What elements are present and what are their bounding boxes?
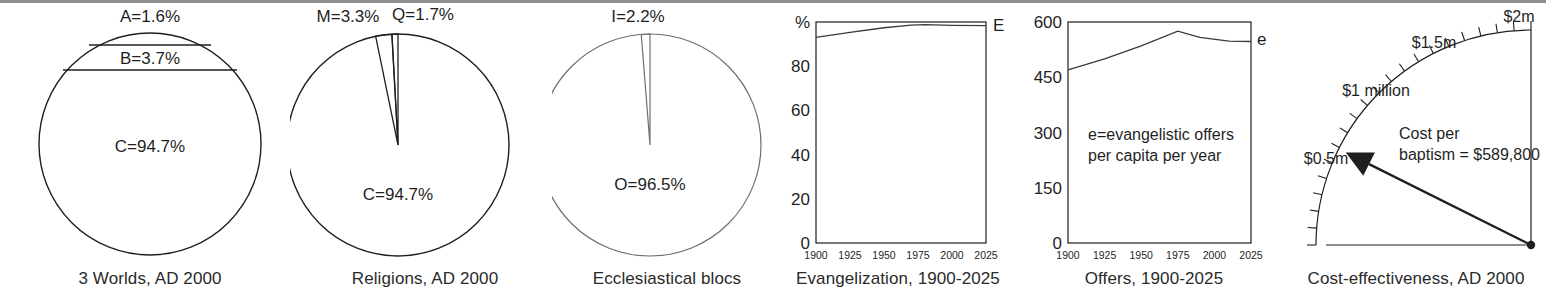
offers-x-tick-labels: 190019251950197520002025 — [1056, 249, 1263, 261]
caption-blocs: Ecclesiastical blocs — [552, 269, 782, 289]
chart-panel-religions: M=3.3% Q=1.7% C=94.7% Religions, AD 2000 — [290, 0, 560, 301]
religions-pie-outline — [290, 34, 509, 256]
evangelization-x-tick-labels: 190019251950197520002025 — [804, 249, 998, 261]
gauge-label-half-million: $0.5m — [1304, 150, 1348, 167]
chart-panel-cost-effectiveness: $0.5m $1 million $1.5m $2m Cost per bapt… — [1286, 0, 1546, 301]
worlds-label-c: C=94.7% — [115, 137, 185, 156]
evangelization-series-label: E — [993, 16, 1004, 35]
svg-text:60: 60 — [791, 101, 810, 120]
evangelization-series-line — [816, 25, 986, 38]
blocs-label-o: O=96.5% — [614, 175, 685, 194]
svg-text:40: 40 — [791, 146, 810, 165]
religions-label-m: M=3.3% — [317, 7, 380, 26]
svg-text:450: 450 — [1034, 68, 1062, 87]
svg-text:80: 80 — [791, 57, 810, 76]
religions-label-c: C=94.7% — [363, 185, 433, 204]
gauge-needle — [1369, 164, 1531, 245]
evangelization-svg: % 020406080 190019251950197520002025 E — [772, 0, 1024, 270]
chart-panel-blocs: I=2.2% O=96.5% Ecclesiastical blocs — [552, 0, 782, 301]
gauge-label-two-million: $2m — [1503, 8, 1534, 25]
chart-panel-three-worlds: A=1.6% B=3.7% C=94.7% 3 Worlds, AD 2000 — [0, 0, 300, 301]
gauge-readout-line-1: Cost per — [1399, 125, 1460, 142]
blocs-svg: I=2.2% O=96.5% — [552, 0, 782, 270]
caption-three-worlds: 3 Worlds, AD 2000 — [0, 269, 300, 289]
svg-text:1900: 1900 — [1056, 249, 1080, 261]
svg-text:1975: 1975 — [906, 249, 930, 261]
gauge-pivot-dot — [1527, 241, 1535, 249]
offers-y-tick-labels: 0150300450600 — [1034, 13, 1062, 253]
svg-text:1975: 1975 — [1166, 249, 1190, 261]
svg-text:1925: 1925 — [1093, 249, 1117, 261]
svg-text:2000: 2000 — [940, 249, 964, 261]
three-worlds-svg: A=1.6% B=3.7% C=94.7% — [0, 0, 300, 270]
blocs-label-i: I=2.2% — [611, 7, 664, 26]
svg-text:1950: 1950 — [1130, 249, 1154, 261]
svg-text:150: 150 — [1034, 179, 1062, 198]
caption-cost-effectiveness: Cost-effectiveness, AD 2000 — [1286, 269, 1546, 289]
evangelization-y-tick-labels: 020406080 — [791, 57, 810, 253]
svg-text:2025: 2025 — [974, 249, 998, 261]
offers-annotation-line-2: per capita per year — [1088, 147, 1222, 164]
gauge-label-one-million: $1 million — [1342, 82, 1410, 99]
caption-religions: Religions, AD 2000 — [290, 269, 560, 289]
svg-text:300: 300 — [1034, 124, 1062, 143]
evangelization-plot-frame — [816, 22, 986, 243]
offers-annotation-line-1: e=evangelistic offers — [1088, 126, 1234, 143]
gauge-label-one-and-half-million: $1.5m — [1412, 34, 1456, 51]
caption-offers: Offers, 1900-2025 — [1020, 269, 1288, 289]
svg-text:1950: 1950 — [872, 249, 896, 261]
worlds-label-a: A=1.6% — [120, 7, 180, 26]
blocs-slice-i — [641, 34, 650, 145]
blocs-pie-outline — [552, 34, 761, 256]
worlds-label-b: B=3.7% — [120, 49, 180, 68]
gauge-readout-line-2: baptism = $589,800 — [1399, 146, 1540, 163]
offers-series-line — [1068, 31, 1251, 70]
religions-svg: M=3.3% Q=1.7% C=94.7% — [290, 0, 560, 270]
offers-svg: 0150300450600 190019251950197520002025 e… — [1020, 0, 1288, 270]
evangelization-axis-unit: % — [795, 13, 810, 32]
cost-gauge-svg: $0.5m $1 million $1.5m $2m Cost per bapt… — [1286, 0, 1546, 270]
religions-label-q: Q=1.7% — [392, 5, 454, 24]
chart-panel-offers: 0150300450600 190019251950197520002025 e… — [1020, 0, 1288, 301]
offers-series-label: e — [1257, 30, 1266, 49]
svg-text:1925: 1925 — [838, 249, 862, 261]
svg-text:20: 20 — [791, 190, 810, 209]
svg-text:2000: 2000 — [1203, 249, 1227, 261]
svg-text:600: 600 — [1034, 13, 1062, 32]
figure-strip: A=1.6% B=3.7% C=94.7% 3 Worlds, AD 2000 … — [0, 0, 1546, 301]
caption-evangelization: Evangelization, 1900-2025 — [772, 269, 1024, 289]
svg-text:1900: 1900 — [804, 249, 828, 261]
svg-text:2025: 2025 — [1239, 249, 1263, 261]
chart-panel-evangelization: % 020406080 190019251950197520002025 E E… — [772, 0, 1024, 301]
